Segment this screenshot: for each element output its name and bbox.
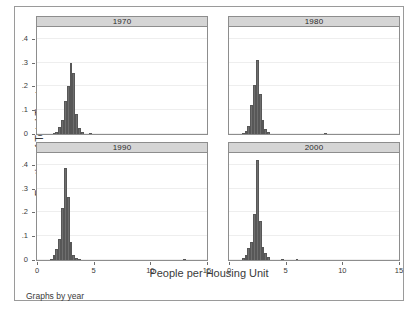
histogram-bar [267, 257, 270, 260]
x-tick-mark [94, 262, 95, 265]
histogram-bar [183, 259, 186, 260]
x-tick-mark [207, 262, 208, 265]
x-tick-label: 15 [200, 266, 214, 275]
y-tick-mark [32, 110, 35, 111]
y-tick-mark [32, 39, 35, 40]
panel-title-1990: 1990 [36, 142, 208, 153]
plot-area-1970 [36, 27, 208, 135]
y-tick-label: .3 [12, 58, 28, 67]
x-tick-mark [150, 262, 151, 265]
bars-layer [229, 27, 399, 134]
y-tick-label: .2 [12, 81, 28, 90]
y-tick-mark [32, 236, 35, 237]
graph-note: Graphs by year [26, 291, 84, 301]
x-tick-label: 5 [87, 266, 101, 275]
y-tick-label: .1 [12, 105, 28, 114]
y-tick-mark [32, 260, 35, 261]
x-tick-label: 5 [279, 266, 293, 275]
plot-area-2000 [228, 153, 400, 261]
x-tick-mark [37, 262, 38, 265]
bars-layer [229, 153, 399, 260]
y-tick-label: .2 [12, 207, 28, 216]
panel-1970: 1970 [36, 16, 208, 135]
histogram-bar [89, 133, 92, 134]
panel-title-1970: 1970 [36, 16, 208, 27]
bars-layer [37, 153, 207, 260]
histogram-bar [324, 133, 327, 134]
y-tick-label: .4 [12, 160, 28, 169]
x-tick-mark [229, 262, 230, 265]
x-tick-mark [399, 262, 400, 265]
histogram-bar [78, 259, 81, 260]
panel-title-1980: 1980 [228, 16, 400, 27]
y-tick-mark [32, 212, 35, 213]
x-tick-label: 15 [392, 266, 406, 275]
histogram-bar [267, 132, 270, 134]
y-tick-label: .3 [12, 184, 28, 193]
plot-area-1990 [36, 153, 208, 261]
panel-title-2000: 2000 [228, 142, 400, 153]
y-tick-label: .4 [12, 34, 28, 43]
plot-area-1980 [228, 27, 400, 135]
panel-2000: 2000 [228, 142, 400, 261]
y-tick-label: 0 [12, 255, 28, 264]
x-tick-label: 10 [143, 266, 157, 275]
x-tick-mark [286, 262, 287, 265]
y-tick-mark [32, 189, 35, 190]
y-tick-mark [32, 86, 35, 87]
histogram-bar [296, 259, 299, 260]
y-tick-mark [32, 165, 35, 166]
y-tick-mark [32, 63, 35, 64]
x-tick-mark [342, 262, 343, 265]
x-tick-label: 0 [30, 266, 44, 275]
panel-1990: 1990 [36, 142, 208, 261]
histogram-bar [281, 259, 284, 260]
panel-1980: 1980 [228, 16, 400, 135]
x-tick-label: 10 [335, 266, 349, 275]
chart-root: Fraction of Total Tracts People per Hous… [0, 0, 418, 313]
x-tick-label: 0 [222, 266, 236, 275]
y-tick-label: 0 [12, 129, 28, 138]
histogram-bar [81, 132, 84, 134]
y-tick-mark [32, 134, 35, 135]
y-tick-label: .1 [12, 231, 28, 240]
bars-layer [37, 27, 207, 134]
